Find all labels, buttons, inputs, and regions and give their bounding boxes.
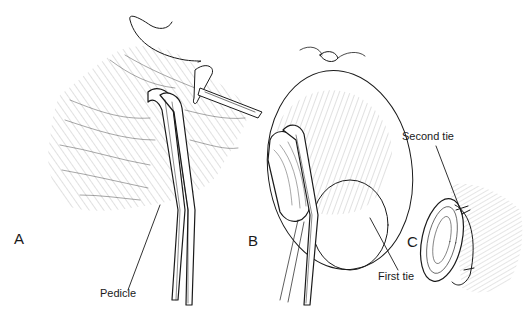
panel-b-illustration bbox=[255, 47, 425, 305]
surgical-ligation-figure: A B C Pedicle First tie Second tie bbox=[0, 0, 528, 316]
callout-first-tie: First tie bbox=[378, 270, 414, 282]
panel-label-b: B bbox=[248, 232, 258, 249]
callout-second-tie: Second tie bbox=[402, 130, 454, 142]
panel-label-a: A bbox=[14, 230, 24, 247]
callout-pedicle: Pedicle bbox=[100, 287, 136, 299]
panel-label-c: C bbox=[407, 233, 418, 250]
hemostat-handle-b bbox=[280, 220, 304, 302]
panel-c-illustration bbox=[414, 146, 523, 293]
pedicle-callout-line bbox=[128, 205, 160, 290]
tissue-mass-a bbox=[48, 46, 250, 211]
knot-b bbox=[320, 52, 338, 62]
illustration-canvas bbox=[0, 0, 528, 316]
panel-a-illustration bbox=[48, 16, 262, 305]
